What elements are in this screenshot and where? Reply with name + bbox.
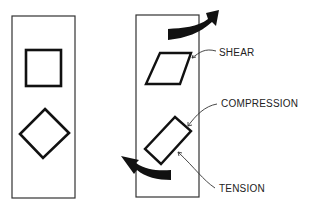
left-bar-outline [12,16,75,198]
rotated-rectangle [145,117,191,164]
shear-label: SHEAR [219,47,254,58]
tension-leader-line [178,152,215,188]
tension-label: TENSION [219,183,265,194]
sheared-parallelogram [146,53,191,84]
compression-label: COMPRESSION [221,98,298,109]
left-panel [12,16,75,198]
right-panel [121,10,219,197]
unstressed-diamond [20,109,69,158]
compression-leader-line [188,104,217,126]
unstressed-square [26,50,61,86]
